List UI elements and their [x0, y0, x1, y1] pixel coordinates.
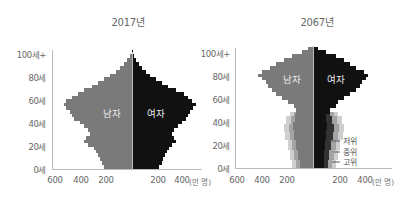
pyramid-2067 — [0, 0, 417, 200]
x-tick-200-right: 200 — [332, 175, 347, 185]
x-tick-600-left: 600 — [229, 175, 244, 185]
panel-2067: 2067년 100세+ 80세 60세 40세 20세 0세 남자 여자 저위 … — [0, 0, 417, 200]
x-tick-400-left: 400 — [254, 175, 269, 185]
legend-low: 저위 — [343, 135, 357, 146]
female-label-2067: 여자 — [327, 72, 344, 86]
legend-high: 고위 — [343, 156, 357, 167]
male-bars-2067 — [258, 47, 313, 168]
male-label-2067: 남자 — [283, 72, 300, 86]
female-bars-2067 — [313, 47, 368, 168]
x-tick-400-right: 400 — [357, 175, 372, 185]
x-unit-2067: (만 명) — [372, 176, 394, 187]
x-tick-200-left: 200 — [279, 175, 294, 185]
